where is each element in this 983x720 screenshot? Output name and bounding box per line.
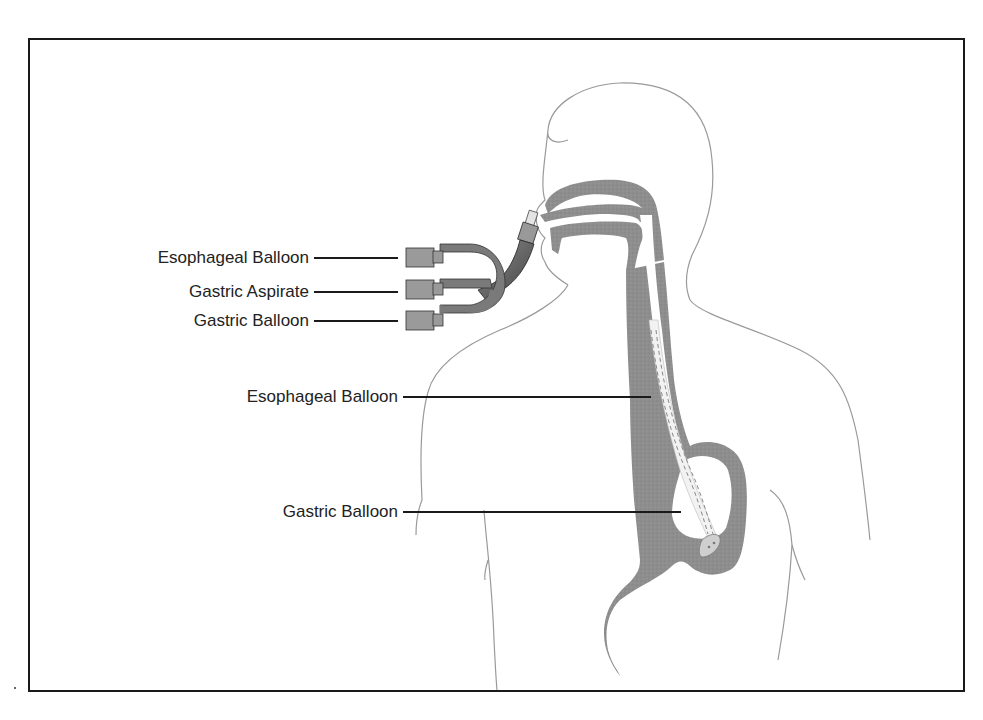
stray-mark	[14, 687, 16, 689]
label-gastric-balloon-port: Gastric Balloon	[194, 311, 309, 331]
label-gastric-balloon: Gastric Balloon	[283, 502, 398, 522]
anatomy-illustration	[0, 0, 983, 720]
label-esophageal-balloon-port: Esophageal Balloon	[158, 248, 309, 268]
label-gastric-aspirate-port: Gastric Aspirate	[189, 282, 309, 302]
connector-gastric-balloon	[406, 311, 443, 330]
catheter-external	[406, 210, 538, 330]
connector-gastric-aspirate	[406, 280, 443, 299]
label-esophageal-balloon: Esophageal Balloon	[247, 387, 398, 407]
connector-esophageal-balloon	[406, 248, 443, 267]
